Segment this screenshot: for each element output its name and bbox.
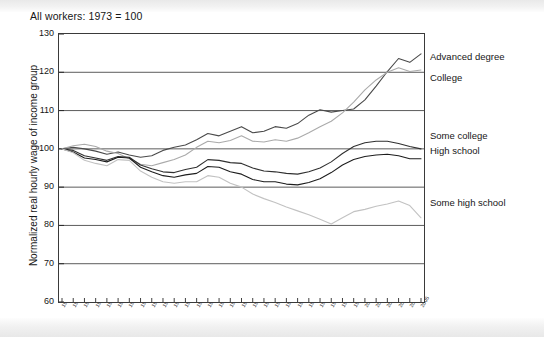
legend-label-advanced-degree: Advanced degree [430,51,504,62]
legend-label-some-college: Some college [430,130,488,141]
series-line-advanced-degree [62,54,421,157]
legend-label-college: College [430,72,462,83]
chart-figure: All workers: 1973 = 100 Normalized real … [0,0,544,337]
y-tick-120: 120 [32,66,54,76]
series-lines [59,34,424,302]
y-tick-130: 130 [32,28,54,38]
legend-label-some-high-school: Some high school [430,197,506,208]
y-tick-60: 60 [32,296,54,306]
y-tick-110: 110 [32,105,54,115]
plot-area [58,33,425,303]
y-tick-70: 70 [32,258,54,268]
series-line-high-school [62,149,421,185]
legend-label-high-school: High school [430,145,480,156]
series-line-college [62,68,421,166]
y-tick-100: 100 [32,143,54,153]
chart-title: All workers: 1973 = 100 [30,10,142,22]
series-line-some-high-school [62,149,421,224]
y-axis-title: Normalized real hourly wage of income gr… [28,46,39,286]
y-tick-90: 90 [32,181,54,191]
y-tick-80: 80 [32,219,54,229]
